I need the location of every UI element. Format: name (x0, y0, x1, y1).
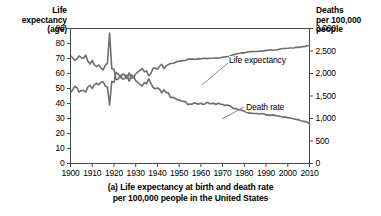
left-axis-tick-60: 60 (41, 69, 65, 78)
right-axis-tick-0: 0 (316, 159, 321, 168)
left-axis-tick-10: 10 (41, 144, 65, 153)
death-rate-label: Death rate (246, 103, 284, 112)
right-axis-tick-500: 500 (316, 137, 330, 146)
left-axis-tick-50: 50 (41, 84, 65, 93)
figure-life-expectancy-death-rate: Life expectancy (age) Deaths per 100,000… (0, 0, 381, 216)
left-axis-tick-80: 80 (41, 39, 65, 48)
right-axis-tick-1,500: 1,500 (316, 92, 336, 101)
caption-line-2: per 100,000 people in the United States (0, 193, 381, 204)
x-axis-tick-2010: 2010 (297, 169, 323, 178)
life-expectancy-label: Life expectancy (229, 56, 286, 65)
left-axis-tick-0: 0 (41, 159, 65, 168)
left-axis-title-line1: Life (52, 5, 67, 15)
right-axis-tick-3,000: 3,000 (316, 24, 336, 33)
figure-caption: (a) Life expectancy at birth and death r… (0, 182, 381, 204)
left-axis-tick-70: 70 (41, 54, 65, 63)
caption-line-1: (a) Life expectancy at birth and death r… (0, 182, 381, 193)
left-axis-tick-40: 40 (41, 99, 65, 108)
left-axis-tick-20: 20 (41, 129, 65, 138)
left-axis-tick-90: 90 (41, 24, 65, 33)
right-axis-tick-2,000: 2,000 (316, 69, 336, 78)
plot-area (70, 28, 310, 164)
right-axis-title-line1: Deaths (316, 5, 344, 15)
right-axis-tick-1,000: 1,000 (316, 114, 336, 123)
right-axis-tick-2,500: 2,500 (316, 47, 336, 56)
left-axis-tick-30: 30 (41, 114, 65, 123)
